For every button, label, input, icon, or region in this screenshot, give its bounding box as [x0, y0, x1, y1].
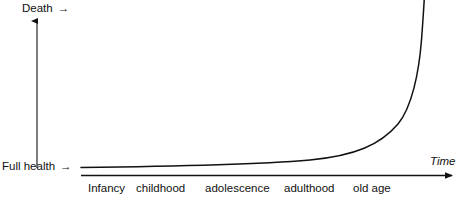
chart-canvas [0, 0, 461, 204]
y-axis-top-label: Death→ [22, 2, 68, 15]
x-axis-label: Time [430, 155, 455, 168]
health-decline-curve [81, 0, 424, 167]
life-stage-labels: Infancy childhood adolescence adulthood … [88, 181, 418, 197]
health-decline-figure: Death→ Full health→ Time Infancy childho… [0, 0, 461, 204]
y-axis-top-label-text: Death [22, 2, 53, 14]
stage-label-old-age: old age [353, 181, 391, 195]
stage-label-childhood: childhood [136, 181, 185, 195]
y-axis-bottom-label: Full health→ [2, 160, 71, 173]
stage-label-adulthood: adulthood [284, 181, 335, 195]
stage-label-infancy: Infancy [88, 181, 125, 195]
arrow-right-icon: → [55, 160, 71, 172]
arrow-right-icon: → [53, 2, 69, 14]
y-axis-bottom-label-text: Full health [2, 160, 55, 172]
stage-label-adolescence: adolescence [205, 181, 270, 195]
